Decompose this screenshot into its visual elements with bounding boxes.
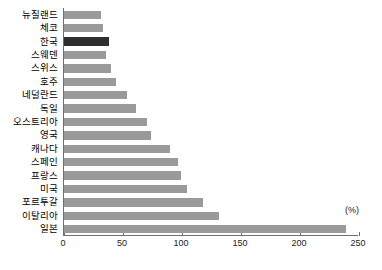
bar-스웨덴 — [64, 51, 106, 59]
category-label-포르투갈: 포르투갈 — [22, 197, 58, 207]
bar-row — [64, 78, 358, 86]
bar-이탈리아 — [64, 212, 219, 220]
bar-row — [64, 24, 358, 32]
bar-row — [64, 11, 358, 19]
bar-포르투갈 — [64, 198, 203, 206]
bar-스페인 — [64, 158, 178, 166]
category-label-이탈리아: 이탈리아 — [22, 211, 58, 221]
bar-뉴질랜드 — [64, 11, 101, 19]
tick-label-150: 150 — [220, 239, 260, 248]
bar-row — [64, 212, 358, 220]
category-label-오스트리아: 오스트리아 — [13, 117, 58, 127]
bar-네덜란드 — [64, 91, 127, 99]
category-label-한국: 한국 — [40, 37, 58, 47]
bar-row — [64, 145, 358, 153]
bar-chart: 뉴질랜드체코한국스웨덴스위스호주네덜란드독일오스트리아영국캐나다스페인프랑스미국… — [0, 0, 382, 270]
category-label-미국: 미국 — [40, 184, 58, 194]
category-label-체코: 체코 — [40, 23, 58, 33]
plot-area — [63, 8, 358, 236]
bar-row — [64, 225, 358, 233]
category-label-독일: 독일 — [40, 104, 58, 114]
bar-한국 — [64, 37, 109, 45]
bar-영국 — [64, 131, 151, 139]
bar-호주 — [64, 78, 116, 86]
bar-row — [64, 198, 358, 206]
unit-label: (%) — [345, 206, 359, 215]
bar-독일 — [64, 104, 136, 112]
bar-스위스 — [64, 64, 111, 72]
category-label-뉴질랜드: 뉴질랜드 — [22, 10, 58, 20]
bar-미국 — [64, 185, 187, 193]
category-label-스위스: 스위스 — [31, 63, 58, 73]
bar-row — [64, 118, 358, 126]
bar-row — [64, 64, 358, 72]
category-label-네덜란드: 네덜란드 — [22, 90, 58, 100]
tick-label-250: 250 — [338, 239, 378, 248]
bar-row — [64, 51, 358, 59]
bar-rows — [64, 8, 358, 235]
bar-row — [64, 104, 358, 112]
bar-캐나다 — [64, 145, 170, 153]
bar-일본 — [64, 225, 346, 233]
tick-label-200: 200 — [279, 239, 319, 248]
bar-row — [64, 37, 358, 45]
bar-오스트리아 — [64, 118, 147, 126]
category-label-캐나다: 캐나다 — [31, 144, 58, 154]
bar-row — [64, 91, 358, 99]
bar-row — [64, 171, 358, 179]
tick-label-0: 0 — [43, 239, 83, 248]
category-label-일본: 일본 — [40, 224, 58, 234]
bar-row — [64, 185, 358, 193]
tick-mark-250 — [359, 232, 360, 236]
bar-체코 — [64, 24, 103, 32]
category-label-스페인: 스페인 — [31, 157, 58, 167]
tick-label-50: 50 — [102, 239, 142, 248]
bar-프랑스 — [64, 171, 181, 179]
category-label-스웨덴: 스웨덴 — [31, 50, 58, 60]
bar-row — [64, 131, 358, 139]
bar-row — [64, 158, 358, 166]
category-label-영국: 영국 — [40, 130, 58, 140]
category-label-호주: 호주 — [40, 77, 58, 87]
category-label-프랑스: 프랑스 — [31, 171, 58, 181]
tick-label-100: 100 — [161, 239, 201, 248]
